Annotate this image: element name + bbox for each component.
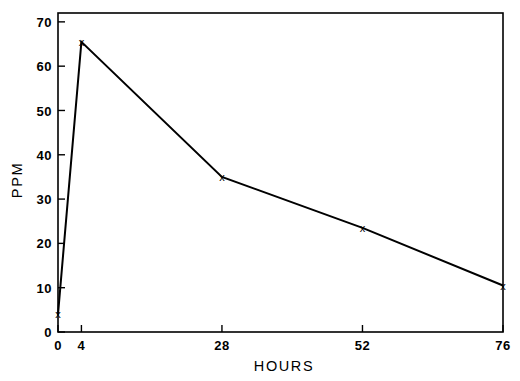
x-tick-label-76: 76	[495, 338, 510, 353]
y-tick-label-50: 50	[37, 104, 52, 119]
y-tick-label-70: 70	[37, 15, 52, 30]
line-chart-figure: 70 60 50 40 30 20 10 0 0 4 28 52 76 HOUR…	[0, 0, 520, 381]
y-tick-label-10: 10	[37, 281, 52, 296]
data-point-marker-3: x	[360, 222, 366, 234]
y-axis-tick-marks	[58, 22, 65, 332]
y-tick-label-0: 0	[44, 325, 52, 340]
data-point-marker-4: x	[500, 280, 506, 292]
x-axis-tick-labels: 0 4 28 52 76	[54, 338, 511, 353]
x-tick-label-0: 0	[54, 338, 62, 353]
y-tick-label-40: 40	[37, 148, 52, 163]
data-point-marker-1: x	[79, 36, 85, 48]
y-axis-tick-labels: 70 60 50 40 30 20 10 0	[37, 15, 52, 340]
y-tick-label-30: 30	[37, 192, 52, 207]
data-series-line	[58, 42, 503, 315]
x-tick-label-4: 4	[78, 338, 86, 353]
x-tick-label-52: 52	[355, 338, 370, 353]
x-axis-title: HOURS	[254, 358, 314, 374]
plot-frame-border	[58, 13, 503, 332]
y-axis-title: PPM	[9, 162, 25, 198]
x-tick-label-28: 28	[214, 338, 229, 353]
data-point-marker-2: x	[219, 171, 225, 183]
chart-canvas: 70 60 50 40 30 20 10 0 0 4 28 52 76 HOUR…	[0, 0, 520, 381]
x-axis-tick-marks	[58, 325, 503, 332]
data-point-marker-0: x	[55, 308, 61, 320]
y-tick-label-20: 20	[37, 236, 52, 251]
data-point-markers: x x x x x	[55, 36, 506, 321]
y-tick-label-60: 60	[37, 59, 52, 74]
